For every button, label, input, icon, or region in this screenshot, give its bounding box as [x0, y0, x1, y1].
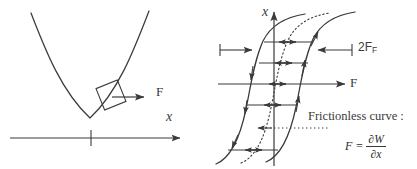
equation-denominator: ∂x: [369, 147, 384, 160]
loop-branch-forward: [266, 12, 355, 162]
left-panel-group: [10, 11, 180, 146]
force-equation: F = ∂W ∂x: [345, 133, 386, 160]
right-x-axis-label: x: [262, 5, 268, 19]
loop-direction-arrows-left: [232, 66, 253, 148]
equation-fraction: ∂W ∂x: [366, 133, 385, 160]
physics-figure: x F x F 2FF Frictionless curve : F = ∂W …: [0, 0, 417, 169]
left-force-label: F: [156, 85, 163, 98]
right-panel-group: [216, 12, 355, 166]
friction-width-label: 2FF: [358, 41, 377, 53]
frictionless-caption: Frictionless curve :: [308, 110, 404, 123]
equation-equals: =: [355, 139, 363, 154]
parabola-curve: [31, 11, 149, 118]
loop-tie-lines: [228, 42, 330, 150]
equation-numerator: ∂W: [366, 133, 385, 146]
friction-width-main: 2F: [358, 40, 372, 54]
equation-lhs: F: [345, 139, 352, 154]
loop-direction-arrows-right: [296, 32, 318, 112]
right-F-axis-label: F: [350, 76, 357, 89]
friction-width-subscript: F: [372, 45, 377, 55]
left-x-axis-label: x: [166, 110, 172, 124]
block-shape: [96, 80, 126, 110]
